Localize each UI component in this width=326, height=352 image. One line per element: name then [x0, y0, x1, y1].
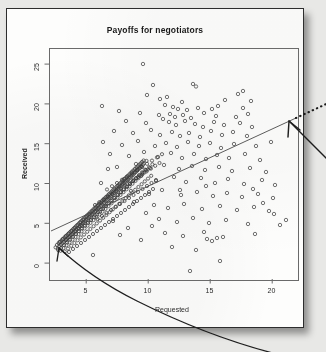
chart-canvas	[7, 9, 303, 327]
x-tick-label-20: 20	[268, 287, 276, 294]
arrow-to-cluster-icon	[57, 248, 307, 352]
arrow-to-regression-line-icon	[288, 121, 326, 169]
x-axis-title: Requested	[155, 306, 189, 313]
x-tick-label-5: 5	[84, 287, 88, 294]
y-tick-label-10: 10	[33, 183, 40, 191]
y-tick-label-25: 25	[33, 63, 40, 71]
axis-ticks	[45, 64, 273, 283]
x-tick-label-15: 15	[206, 287, 214, 294]
screenshot-root: Payoffs for negotiators	[0, 0, 326, 352]
y-axis-title: Received	[21, 148, 28, 179]
y-tick-label-20: 20	[33, 103, 40, 111]
y-tick-label-0: 0	[33, 264, 40, 268]
y-tick-label-5: 5	[33, 224, 40, 228]
x-tick-label-10: 10	[144, 287, 152, 294]
scanned-page: Payoffs for negotiators	[6, 8, 304, 328]
y-tick-label-15: 15	[33, 143, 40, 151]
